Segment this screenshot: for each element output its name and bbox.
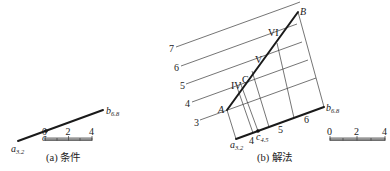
level-label-7: 7 xyxy=(169,43,174,54)
level-label-5: 5 xyxy=(180,80,185,91)
scale-b-tick-4: 4 xyxy=(382,126,387,137)
level-label-4: 4 xyxy=(185,98,190,109)
caption-b: (b) 解法 xyxy=(257,151,292,164)
projection-diagram: a3.2 c b6.8 0 2 4 (a) 条件 xyxy=(0,0,390,171)
label-A: A xyxy=(217,104,225,115)
label-b-b: b6.8 xyxy=(326,102,340,114)
caption-a: (a) 条件 xyxy=(46,151,80,164)
label-b: b6.8 xyxy=(106,105,120,117)
base-tick-4: 4 xyxy=(249,135,254,146)
label-C: C xyxy=(242,74,249,85)
scale-tick-4: 4 xyxy=(89,126,94,137)
figure-a: a3.2 c b6.8 0 2 4 (a) 条件 xyxy=(11,105,120,164)
roman-label-IV: IV xyxy=(231,80,242,91)
label-a: a3.2 xyxy=(11,143,25,155)
scale-b-tick-0: 0 xyxy=(327,126,332,137)
base-tick-6: 6 xyxy=(304,114,309,125)
label-B: B xyxy=(300,6,306,17)
scale-bar-b: 0 2 4 xyxy=(327,126,387,141)
label-a-b: a3.2 xyxy=(230,139,244,151)
scale-bar-a: 0 2 4 xyxy=(42,126,94,141)
scale-tick-0: 0 xyxy=(42,126,47,137)
roman-label-VI: VI xyxy=(268,27,279,38)
label-c-b: c4.5 xyxy=(256,131,269,143)
figure-b: 3 4 5 6 7 4 5 6 a3.2 b6.8 c4.5 A B C IV … xyxy=(169,2,387,164)
roman-label-V: V xyxy=(255,54,263,65)
scale-b-tick-2: 2 xyxy=(354,126,359,137)
level-lines xyxy=(176,2,316,120)
line-AB xyxy=(227,12,298,110)
scale-tick-2: 2 xyxy=(66,126,71,137)
level-label-6: 6 xyxy=(174,62,179,73)
level-label-3: 3 xyxy=(194,117,199,128)
base-tick-5: 5 xyxy=(278,124,283,135)
